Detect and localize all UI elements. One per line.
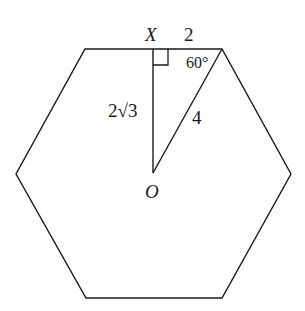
diagram-canvas: X 2 60° 2√3 4 O (0, 0, 305, 311)
label-apothem: 2√3 (108, 100, 137, 121)
label-angle: 60° (186, 54, 208, 71)
hexagon-diagram: X 2 60° 2√3 4 O (0, 0, 305, 311)
label-half-side: 2 (184, 24, 194, 45)
label-radius: 4 (192, 107, 202, 128)
right-angle-marker (153, 49, 168, 65)
label-x-point: X (144, 24, 158, 45)
label-o-point: O (145, 181, 159, 202)
